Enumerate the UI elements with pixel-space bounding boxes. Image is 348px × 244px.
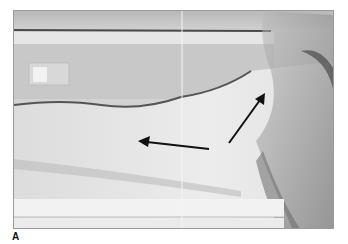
figure-photo [13,10,334,229]
photo-illustration [14,11,334,229]
panel-label: A [12,231,19,242]
